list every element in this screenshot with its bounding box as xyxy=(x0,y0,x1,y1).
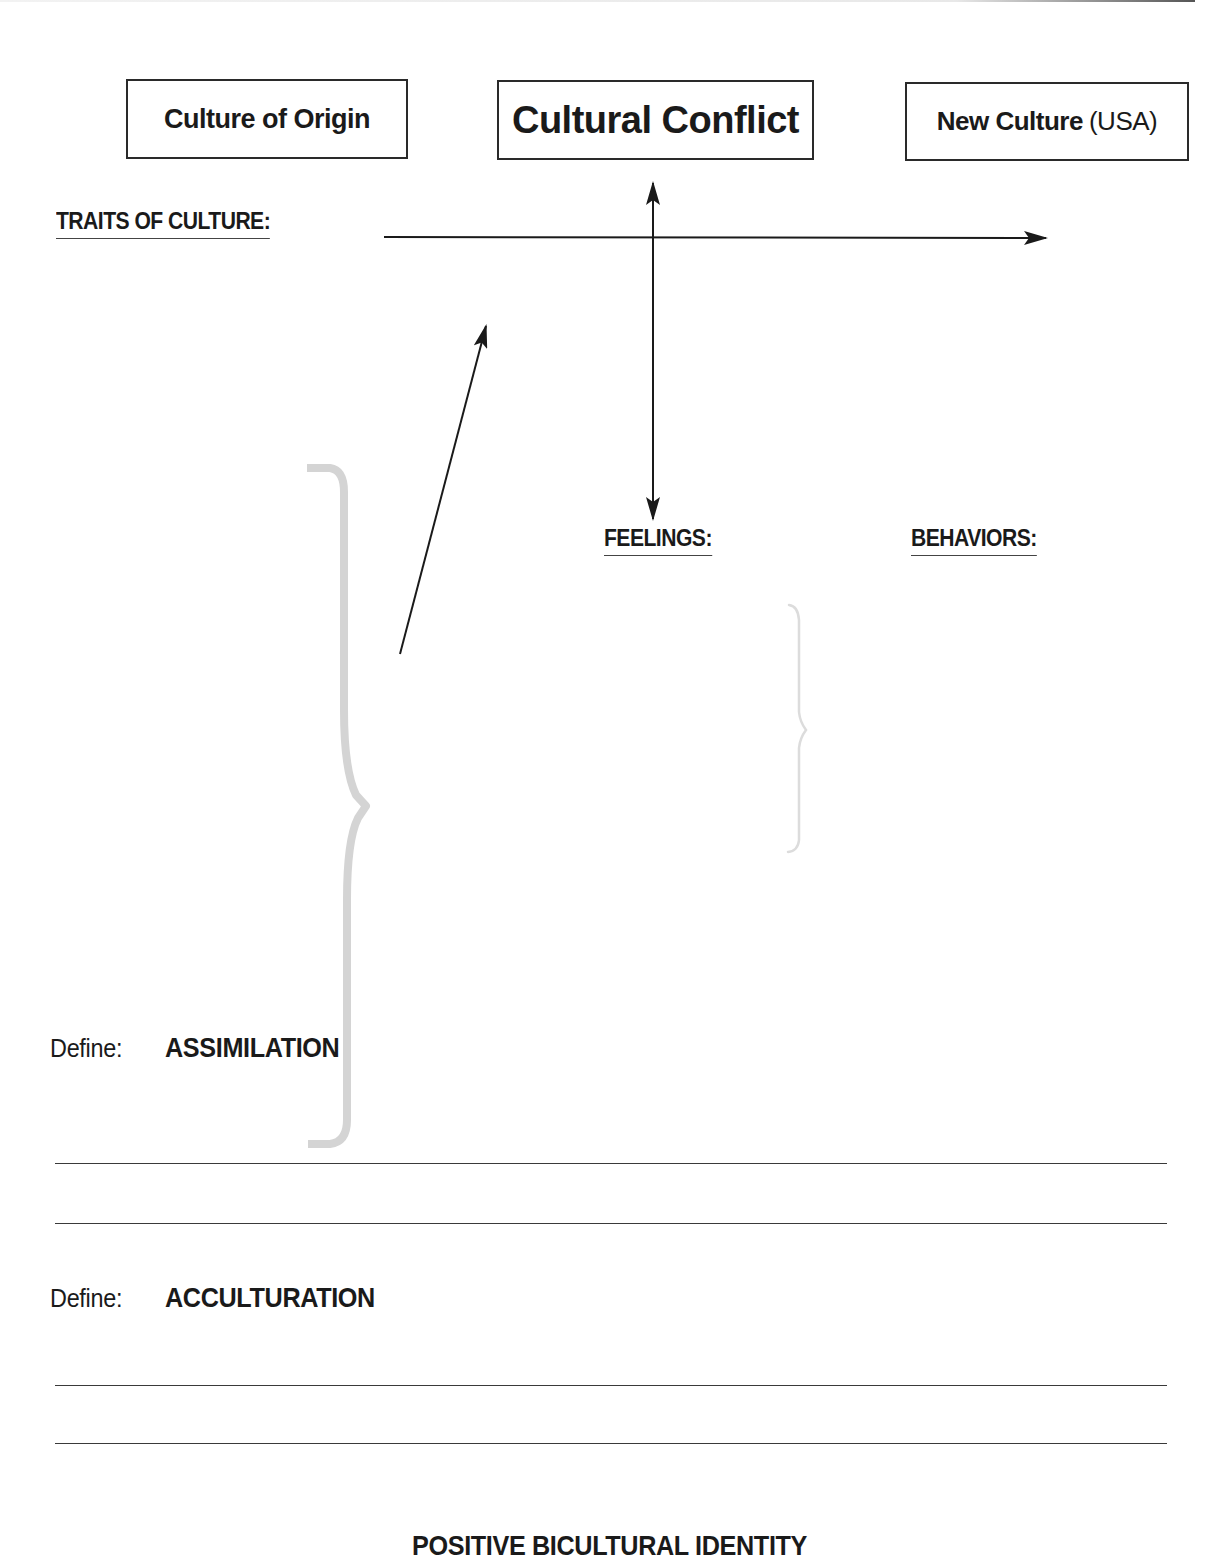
culture-of-origin-box: Culture of Origin xyxy=(126,79,408,159)
feelings-heading: FEELINGS: xyxy=(604,525,712,556)
acculturation-answer-line-1[interactable] xyxy=(55,1385,1167,1386)
acculturation-answer-line-2[interactable] xyxy=(55,1443,1167,1444)
traits-of-culture-heading: TRAITS OF CULTURE: xyxy=(56,208,270,239)
positive-bicultural-identity-heading: POSITIVE BICULTURAL IDENTITY xyxy=(412,1530,807,1559)
behaviors-heading: BEHAVIORS: xyxy=(911,525,1037,556)
top-border-rule xyxy=(0,0,1195,2)
diagonal-arrow-icon xyxy=(400,326,486,654)
define-assimilation-row: Define: ASSIMILATION xyxy=(50,1032,359,1064)
new-culture-country: (USA) xyxy=(1089,106,1157,137)
new-culture-box: New Culture (USA) xyxy=(905,82,1189,161)
assimilation-term: ASSIMILATION xyxy=(165,1032,339,1064)
culture-of-origin-label: Culture of Origin xyxy=(164,104,370,135)
define-prompt: Define: xyxy=(50,1283,154,1314)
cultural-conflict-label: Cultural Conflict xyxy=(512,99,799,142)
small-curly-brace-icon xyxy=(788,605,806,852)
assimilation-answer-line-1[interactable] xyxy=(55,1163,1167,1164)
assimilation-answer-line-2[interactable] xyxy=(55,1223,1167,1224)
cultural-conflict-box: Cultural Conflict xyxy=(497,80,814,160)
acculturation-term: ACCULTURATION xyxy=(165,1282,375,1314)
define-prompt: Define: xyxy=(50,1033,154,1064)
new-culture-label: New Culture xyxy=(937,106,1083,137)
horizontal-arrow-icon xyxy=(384,237,1046,238)
define-acculturation-row: Define: ACCULTURATION xyxy=(50,1282,398,1314)
